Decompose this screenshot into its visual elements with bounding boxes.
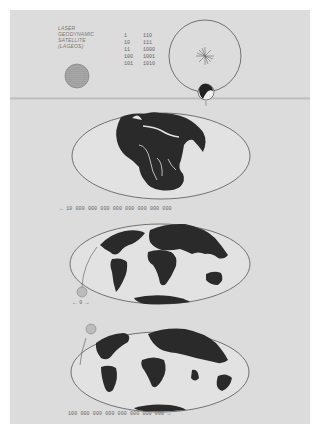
satellite-rosette-icon	[65, 64, 89, 88]
future-time-caption: 100 000 000 000 000 000 000 000 →	[68, 411, 170, 417]
present-time-caption: ← 0 →	[73, 300, 89, 306]
solar-orbit-diagram	[169, 20, 241, 106]
plaque-artwork	[0, 0, 317, 436]
sun-icon	[196, 47, 214, 65]
map-past-continents	[72, 112, 250, 199]
earth-icon	[198, 84, 214, 100]
past-time-caption: ← 10 000 000 000 000 000 000 000 000	[60, 206, 172, 212]
satellite-icon	[77, 287, 87, 297]
map-future-continents	[71, 324, 249, 412]
satellite-icon	[86, 324, 96, 334]
map-present-continents	[70, 224, 250, 304]
